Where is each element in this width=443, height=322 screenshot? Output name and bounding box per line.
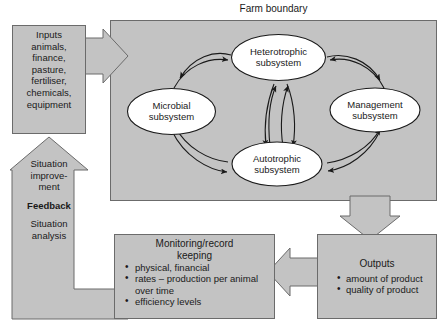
feedback-label: Feedback xyxy=(12,200,86,212)
monitoring-list: physical, financial rates – production p… xyxy=(122,262,274,308)
label-line1: Heterotrophic xyxy=(231,46,326,57)
label-management-subsystem: Management subsystem xyxy=(330,99,420,121)
list-item: rates – production per animal over time xyxy=(135,273,274,296)
situation-improvement-line1: Situation xyxy=(12,158,86,170)
label-line2: subsystem xyxy=(232,164,322,175)
inputs-text-block: Inputs animals, finance, pasture, fertil… xyxy=(12,29,86,110)
situation-improvement-line3: ment xyxy=(12,181,86,193)
list-item: physical, financial xyxy=(135,262,274,273)
inputs-item: chemicals, xyxy=(12,87,86,99)
feedback-label-block: Situation improve- ment Feedback Situati… xyxy=(12,158,86,242)
situation-analysis-line1: Situation xyxy=(12,218,86,230)
outputs-heading: Outputs xyxy=(317,258,437,270)
list-item: amount of product xyxy=(346,273,440,284)
spacer xyxy=(12,193,86,200)
label-line2: subsystem xyxy=(231,57,326,68)
label-line1: Autotrophic xyxy=(232,153,322,164)
label-line2: subsystem xyxy=(330,110,420,121)
inputs-item: pasture, xyxy=(12,64,86,76)
label-microbial-subsystem: Microbial subsystem xyxy=(127,100,216,122)
label-line1: Management xyxy=(330,99,420,110)
inputs-item: animals, xyxy=(12,41,86,53)
list-item: quality of product xyxy=(346,284,440,295)
inputs-item: equipment xyxy=(12,99,86,111)
label-heterotrophic-subsystem: Heterotrophic subsystem xyxy=(231,46,326,68)
inputs-heading: Inputs xyxy=(12,29,86,41)
label-line1: Microbial xyxy=(127,100,216,111)
list-item: efficiency levels xyxy=(135,296,274,307)
situation-analysis-line2: analysis xyxy=(12,230,86,242)
inputs-item: fertiliser, xyxy=(12,75,86,87)
inputs-item: finance, xyxy=(12,52,86,64)
spacer xyxy=(12,211,86,218)
situation-improvement-line2: improve- xyxy=(12,170,86,182)
monitoring-title: Monitoring/record keeping xyxy=(114,238,275,261)
farm-system-diagram: Farm boundary Inputs animals, finance, p… xyxy=(0,0,443,322)
label-line2: subsystem xyxy=(127,111,216,122)
monitoring-title-line1: Monitoring/record xyxy=(114,238,275,250)
outputs-list: amount of product quality of product xyxy=(335,273,440,296)
label-autotrophic-subsystem: Autotrophic subsystem xyxy=(232,153,322,175)
monitoring-title-line2: keeping xyxy=(114,250,275,262)
